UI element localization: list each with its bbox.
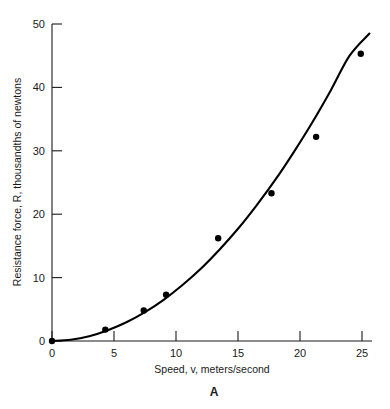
x-tick-label-20: 20 xyxy=(294,347,306,359)
y-tick-label-50: 50 xyxy=(33,18,45,30)
resistance-vs-speed-chart: 0 10 20 30 40 50 0 5 10 15 20 25 Speed, … xyxy=(0,0,390,409)
x-axis-title: Speed, v, meters/second xyxy=(154,363,270,375)
fit-curve xyxy=(52,34,369,341)
y-tick-label-10: 10 xyxy=(33,272,45,284)
data-point xyxy=(163,292,169,298)
panel-letter-label: A xyxy=(210,385,219,399)
y-tick-label-20: 20 xyxy=(33,208,45,220)
x-tick-label-15: 15 xyxy=(232,347,244,359)
data-point xyxy=(102,326,108,332)
y-axis-title: Resistance force, R, thousandths of newt… xyxy=(11,78,23,286)
data-point xyxy=(49,338,55,344)
data-point xyxy=(358,51,364,57)
figure-container: 0 10 20 30 40 50 0 5 10 15 20 25 Speed, … xyxy=(0,0,390,409)
data-point xyxy=(141,307,147,313)
y-axis-ticks xyxy=(52,24,62,341)
data-point xyxy=(313,134,319,140)
y-tick-label-30: 30 xyxy=(33,145,45,157)
data-point-group xyxy=(49,51,364,345)
x-tick-label-5: 5 xyxy=(111,347,117,359)
x-tick-label-0: 0 xyxy=(49,347,55,359)
y-tick-label-40: 40 xyxy=(33,81,45,93)
x-tick-label-25: 25 xyxy=(356,347,368,359)
data-point xyxy=(215,235,221,241)
data-point xyxy=(268,190,274,196)
x-tick-label-10: 10 xyxy=(170,347,182,359)
y-tick-label-0: 0 xyxy=(39,335,45,347)
